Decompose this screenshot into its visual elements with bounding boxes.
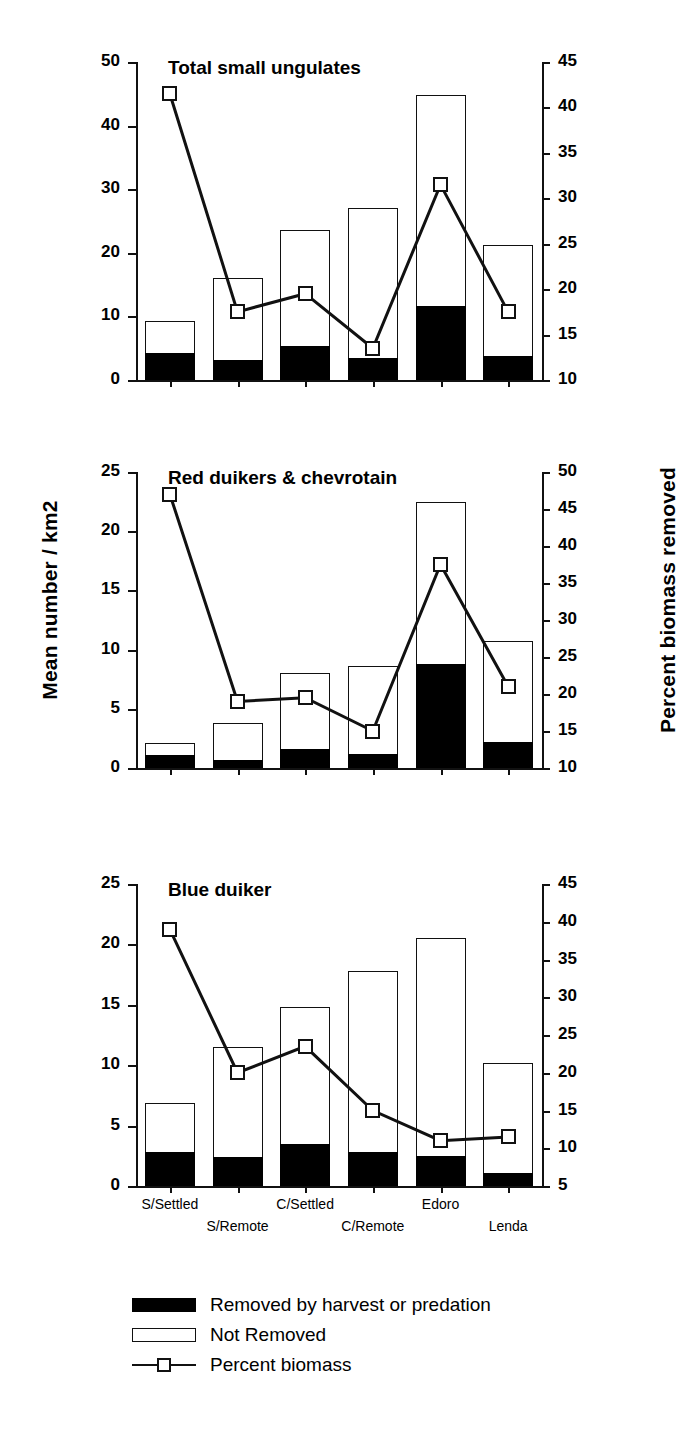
bar-segment-not-removed [416,938,466,1186]
y2-axis-tick-label: 30 [558,609,577,629]
y-axis-tick-label: 10 [66,1054,120,1074]
y2-axis-tick-label: 10 [558,369,577,389]
legend-label: Percent biomass [210,1354,352,1376]
y-axis-tick [128,1186,136,1188]
y-axis-tick-label: 15 [66,994,120,1014]
x-axis-label-c-settled: C/Settled [250,1196,360,1212]
bar-segment-removed [145,1152,195,1186]
y-axis-tick-label: 15 [66,579,120,599]
y2-axis-tick [542,694,550,696]
y2-axis-tick-label: 10 [558,757,577,777]
y-axis-tick [128,531,136,533]
legend-item-not-removed: Not Removed [132,1320,602,1350]
x-axis-tick [170,1186,172,1193]
y2-axis-tick-label: 10 [558,1137,577,1157]
y2-axis-tick-label: 35 [558,572,577,592]
line-marker [230,304,245,319]
line-marker [298,1039,313,1054]
stacked-bar [348,666,398,768]
stacked-bar [213,723,263,768]
legend-item-removed: Removed by harvest or predation [132,1290,602,1320]
y-axis-tick [128,189,136,191]
line-marker [433,177,448,192]
y-axis-tick-label: 0 [66,757,120,777]
stacked-bar [145,743,195,768]
y-axis-tick-label: 10 [66,639,120,659]
y2-axis-tick-label: 15 [558,324,577,344]
y-axis-tick [128,1126,136,1128]
y2-axis-tick [542,731,550,733]
stacked-bar [145,1103,195,1186]
x-axis-tick [170,768,172,775]
line-marker [162,922,177,937]
y-axis-tick [128,709,136,711]
bar-segment-removed [280,749,330,768]
y2-axis-tick-label: 25 [558,233,577,253]
line-marker [365,724,380,739]
bar-segment-removed [483,1173,533,1186]
y2-axis-tick [542,583,550,585]
y2-axis-tick-label: 40 [558,911,577,931]
bar-segment-removed [416,306,466,380]
bar-segment-removed [483,356,533,380]
x-axis-tick [373,1186,375,1193]
x-axis-tick [305,768,307,775]
y2-axis-tick [542,198,550,200]
y2-axis-tick-label: 20 [558,683,577,703]
bar-segment-removed [280,1144,330,1186]
bar-segment-removed [213,1157,263,1186]
y-axis-tick-label: 25 [66,461,120,481]
x-axis-label-edoro: Edoro [386,1196,496,1212]
y2-axis-tick [542,546,550,548]
line-square-marker-icon [132,1358,196,1372]
y2-axis-tick [542,244,550,246]
y2-axis-tick-label: 30 [558,187,577,207]
y2-axis-tick [542,768,550,770]
x-axis-tick [238,1186,240,1193]
y-axis-left-title: Mean number / km2 [38,470,62,730]
y2-axis-tick-label: 20 [558,278,577,298]
bar-segment-removed [416,664,466,768]
chart-title: Blue duiker [168,879,271,901]
legend-item-percent-biomass: Percent biomass [132,1350,602,1380]
y2-axis-tick-label: 35 [558,142,577,162]
x-axis-label-c-remote: C/Remote [318,1218,428,1234]
x-axis-tick [305,1186,307,1193]
stacked-bar [213,278,263,380]
y2-axis-tick [542,62,550,64]
y-axis-tick-label: 0 [66,369,120,389]
y2-axis-tick [542,472,550,474]
stacked-bar [416,938,466,1186]
y2-axis-tick [542,1073,550,1075]
bar-segment-removed [280,346,330,380]
bar-segment-removed [348,1152,398,1186]
line-marker [298,286,313,301]
y-axis-tick-label: 30 [66,178,120,198]
legend-label: Not Removed [210,1324,326,1346]
bar-segment-removed [145,353,195,380]
y2-axis-tick-label: 35 [558,949,577,969]
line-marker [365,341,380,356]
y2-axis-tick [542,620,550,622]
y2-axis-tick [542,1111,550,1113]
filled-rectangle-icon [132,1298,196,1312]
bar-segment-removed [348,358,398,380]
line-marker [433,1133,448,1148]
line-marker [501,304,516,319]
stacked-bar [348,971,398,1186]
y-axis-tick-label: 5 [66,698,120,718]
right-axis-spine [542,62,544,380]
open-rectangle-icon [132,1328,196,1342]
y-axis-tick [128,62,136,64]
x-axis-tick [373,768,375,775]
y-axis-tick [128,650,136,652]
y2-axis-tick [542,1035,550,1037]
bar-segment-removed [348,754,398,768]
line-marker [501,1129,516,1144]
stacked-bar [416,502,466,768]
y2-axis-tick-label: 15 [558,1100,577,1120]
x-axis-tick [238,768,240,775]
line-marker [230,1065,245,1080]
y2-axis-tick [542,922,550,924]
y2-axis-tick [542,289,550,291]
